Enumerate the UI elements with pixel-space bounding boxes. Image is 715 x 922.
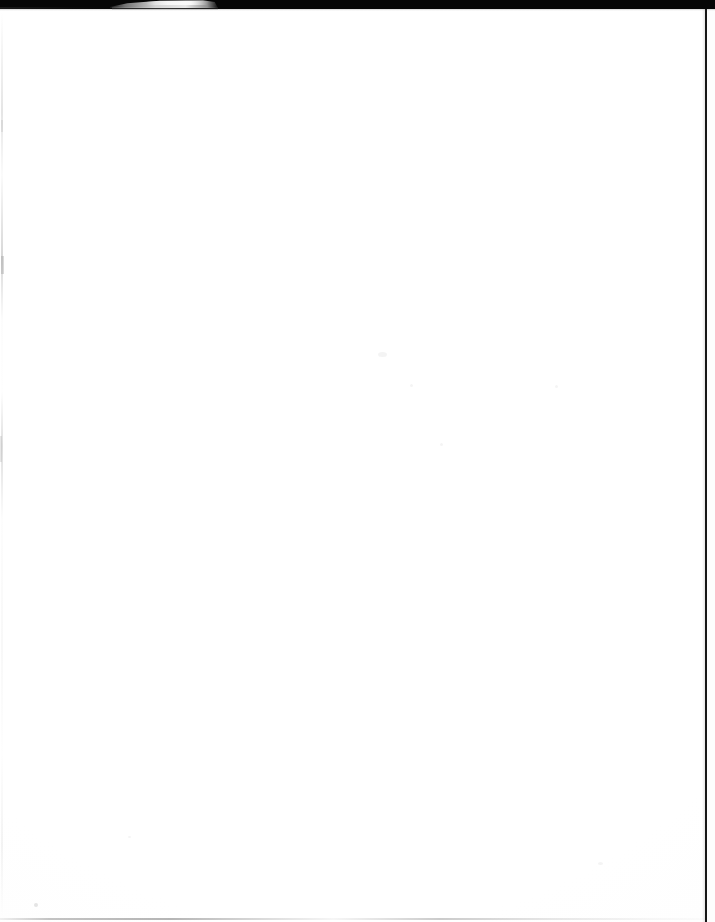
right-edge-rule xyxy=(705,9,707,922)
left-margin-scan-streak xyxy=(1,12,3,917)
dust-speck xyxy=(440,443,443,446)
left-margin-speck xyxy=(0,436,2,462)
scanned-page-canvas xyxy=(0,0,715,922)
paper-tone xyxy=(0,8,715,922)
left-margin-speck xyxy=(1,120,3,132)
paper-edge-highlight xyxy=(146,1,208,5)
bottom-edge-speck xyxy=(34,903,38,907)
bottom-edge-line xyxy=(0,918,709,920)
dust-speck xyxy=(598,862,603,865)
dust-speck xyxy=(378,352,387,357)
dust-speck xyxy=(555,385,558,388)
right-edge-margin xyxy=(707,9,715,922)
dust-speck xyxy=(410,384,413,387)
left-margin-speck xyxy=(1,256,4,274)
page-sheet xyxy=(0,0,715,922)
scanner-lid-band-taper xyxy=(0,7,120,9)
dust-speck xyxy=(128,836,131,838)
